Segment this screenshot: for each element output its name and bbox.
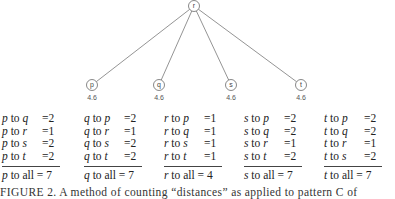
distance-value: =2	[124, 137, 136, 150]
pair-label: p to r	[2, 125, 42, 138]
distance-value: =1	[204, 125, 216, 138]
distance-table-r: r to p=1r to q=1r to s=1r to t=1r to all…	[164, 112, 222, 182]
from-node: p	[2, 112, 8, 124]
to-node: r	[342, 137, 346, 149]
distance-row: r to s=1	[164, 137, 222, 150]
pair-label: p to s	[2, 137, 42, 150]
distance-value: =2	[124, 150, 136, 163]
from-node: q	[84, 150, 90, 162]
total-label: to all	[330, 169, 353, 181]
total-value: = 7	[356, 169, 371, 181]
node-value: 4.6	[226, 94, 236, 101]
distance-row: t to p=2	[324, 112, 382, 125]
to-node: r	[263, 137, 267, 149]
nodes: rp4.6q4.6s4.6t4.6	[87, 1, 307, 102]
from-node: t	[324, 169, 327, 181]
from-node: s	[244, 169, 248, 181]
to-node: t	[104, 150, 107, 162]
to-node: q	[22, 112, 28, 124]
edge-r-q	[161, 11, 192, 80]
edge-r-p	[96, 9, 189, 81]
distance-row: q to r=1	[84, 125, 142, 138]
to-word: to	[171, 112, 180, 124]
distance-row: r to q=1	[164, 125, 222, 138]
from-node: q	[84, 125, 90, 137]
from-node: p	[2, 169, 8, 181]
distance-row: r to t=1	[164, 150, 222, 163]
to-word: to	[330, 137, 339, 149]
star-network-diagram: rp4.6q4.6s4.6t4.6	[0, 0, 395, 110]
distance-value: =2	[284, 125, 296, 138]
from-node: s	[244, 112, 248, 124]
sum-rule	[2, 166, 60, 167]
from-node: t	[324, 112, 327, 124]
pair-label: s to p	[244, 112, 284, 125]
to-node: p	[342, 112, 348, 124]
to-node: q	[342, 125, 348, 137]
total-row: r to all = 4	[164, 169, 222, 182]
distance-row: q to t=2	[84, 150, 142, 163]
to-node: s	[342, 150, 346, 162]
to-node: s	[22, 137, 26, 149]
distance-value: =2	[364, 150, 376, 163]
pair-label: r to p	[164, 112, 204, 125]
pair-label: q to s	[84, 137, 124, 150]
to-word: to	[330, 150, 339, 162]
to-word: to	[330, 112, 339, 124]
distance-row: s to p=2	[244, 112, 302, 125]
node-t: t4.6	[296, 80, 307, 102]
to-node: s	[104, 137, 108, 149]
from-node: p	[2, 150, 8, 162]
from-node: p	[2, 125, 8, 137]
distance-row: p to r=1	[2, 125, 60, 138]
from-node: q	[84, 112, 90, 124]
distance-value: =1	[364, 137, 376, 150]
figure-caption: FIGURE 2. A method of counting “distance…	[0, 186, 358, 198]
node-label: t	[300, 81, 302, 88]
edge-r-t	[198, 9, 296, 81]
to-node: t	[183, 150, 186, 162]
to-word: to	[251, 137, 260, 149]
distance-row: s to q=2	[244, 125, 302, 138]
to-word: to	[251, 112, 260, 124]
pair-label: q to t	[84, 150, 124, 163]
to-word: to	[11, 137, 20, 149]
distance-table-t: t to p=2t to q=2t to r=1t to s=2t to all…	[324, 112, 382, 182]
node-label: q	[157, 81, 161, 89]
node-label: p	[90, 81, 94, 89]
from-node: r	[164, 169, 168, 181]
to-word: to	[251, 125, 260, 137]
node-r: r	[189, 1, 200, 12]
distance-row: q to p=2	[84, 112, 142, 125]
from-node: r	[164, 150, 168, 162]
to-node: p	[183, 112, 189, 124]
from-node: s	[244, 150, 248, 162]
to-node: t	[263, 150, 266, 162]
distance-value: =1	[42, 125, 54, 138]
distance-value: =2	[364, 112, 376, 125]
total-row: s to all = 7	[244, 169, 302, 182]
to-node: q	[263, 125, 269, 137]
node-q: q4.6	[154, 80, 165, 102]
distance-row: t to q=2	[324, 125, 382, 138]
to-node: q	[183, 125, 189, 137]
to-node: r	[104, 125, 108, 137]
total-value: = 7	[37, 169, 52, 181]
total-row: p to all = 7	[2, 169, 60, 182]
distance-value: =2	[42, 112, 54, 125]
to-word: to	[11, 150, 20, 162]
distance-row: p to t=2	[2, 150, 60, 163]
pair-label: s to r	[244, 137, 284, 150]
to-node: p	[263, 112, 269, 124]
to-word: to	[93, 112, 102, 124]
node-value: 4.6	[154, 94, 164, 101]
pair-label: t to p	[324, 112, 364, 125]
to-word: to	[93, 150, 102, 162]
distance-value: =2	[364, 125, 376, 138]
distance-value: =2	[284, 112, 296, 125]
to-word: to	[11, 125, 20, 137]
edge-r-s	[196, 11, 228, 80]
distance-value: =1	[204, 150, 216, 163]
distance-table-s: s to p=2s to q=2s to r=1s to t=2s to all…	[244, 112, 302, 182]
edges	[96, 9, 296, 81]
